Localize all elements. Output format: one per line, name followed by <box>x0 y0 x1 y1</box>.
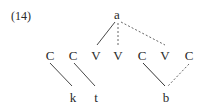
example-number: (14) <box>11 10 31 22</box>
skeleton-slot-c: C <box>69 49 78 62</box>
skeleton-slot-v: V <box>160 49 169 62</box>
line-c4-to-b <box>168 64 189 86</box>
melody-segment-b: b <box>163 91 170 104</box>
melody-segment-k: k <box>70 91 77 104</box>
root-node: a <box>114 8 120 21</box>
melody-segment-t: t <box>94 91 98 104</box>
line-a-to-v3 <box>121 22 165 45</box>
skeleton-slot-c: C <box>185 49 194 62</box>
line-c3-to-b <box>143 63 165 86</box>
skeleton-slot-c: C <box>138 49 147 62</box>
line-a-to-v1 <box>97 22 115 45</box>
skeleton-slot-v: V <box>113 49 122 62</box>
skeleton-slot-v: V <box>91 49 100 62</box>
line-c1-to-k <box>50 63 72 86</box>
skeleton-slot-c: C <box>46 49 55 62</box>
line-c2-to-t <box>74 63 95 86</box>
